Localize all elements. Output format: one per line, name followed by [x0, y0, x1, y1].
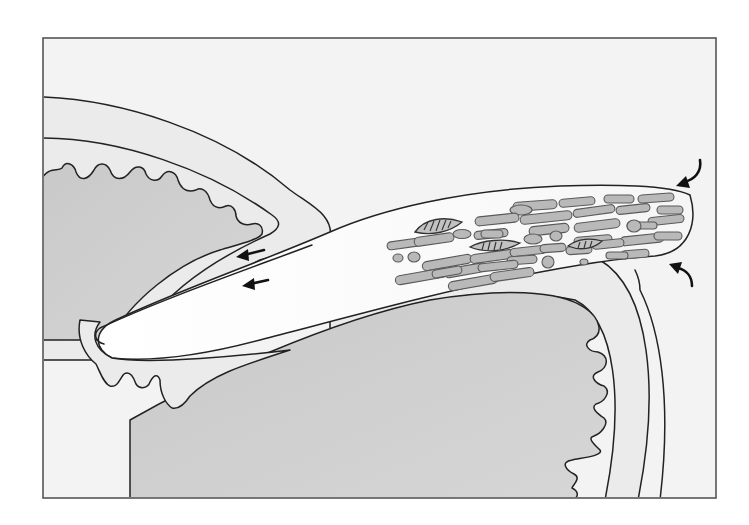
diagram-figure — [0, 0, 749, 525]
